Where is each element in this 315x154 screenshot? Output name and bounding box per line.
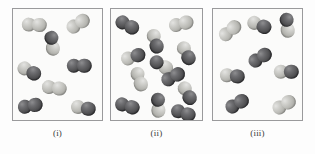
- dark-atom-sphere: [80, 101, 97, 118]
- molecule-panel-2: [110, 8, 203, 121]
- panel-contents: [13, 9, 102, 120]
- dark-atom-sphere: [229, 69, 245, 85]
- light-atom-sphere: [32, 18, 47, 33]
- light-atom-sphere: [51, 81, 67, 97]
- molecular-figure: (i)(ii)(iii): [0, 0, 315, 154]
- panel-caption-1: (i): [12, 128, 103, 138]
- dark-atom-sphere: [284, 65, 298, 79]
- panel-contents: [111, 9, 202, 120]
- molecule-panel-1: [12, 8, 103, 121]
- panel-caption-3: (iii): [212, 128, 303, 138]
- molecule-panel-3: [212, 8, 303, 121]
- panel-contents: [213, 9, 302, 120]
- dark-atom-sphere: [77, 59, 91, 73]
- panel-caption-2: (ii): [110, 128, 203, 138]
